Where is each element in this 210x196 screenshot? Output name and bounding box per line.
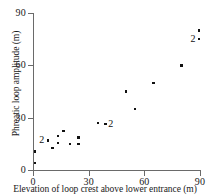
data-point [34,162,37,165]
data-point [180,64,183,67]
data-point [152,82,155,85]
data-point [134,108,137,111]
data-point [104,123,107,126]
data-point [47,139,50,142]
y-axis-label: Phreatic loop amplitude (m) [11,9,22,159]
data-point [62,130,65,133]
data-point [57,142,60,145]
data-point [34,150,37,153]
data-point [57,135,60,138]
y-tick-label: 0 [0,165,26,175]
data-point-count-label: 2 [39,135,44,145]
scatter-chart-figure: 0306090 0306090 Phreatic loop amplitude … [0,0,210,196]
data-point [77,143,80,146]
x-axis-line [33,170,201,171]
data-point [69,143,72,146]
data-point-count-label: 2 [191,34,196,44]
data-point [125,90,128,93]
data-point-count-label: 2 [108,119,113,129]
data-point [77,136,80,139]
data-point [51,147,54,150]
plot-area [33,13,200,170]
data-point [198,38,201,41]
data-point [97,122,100,125]
data-point [198,29,201,32]
x-axis-label: Elevation of loop crest above lower entr… [0,184,210,195]
